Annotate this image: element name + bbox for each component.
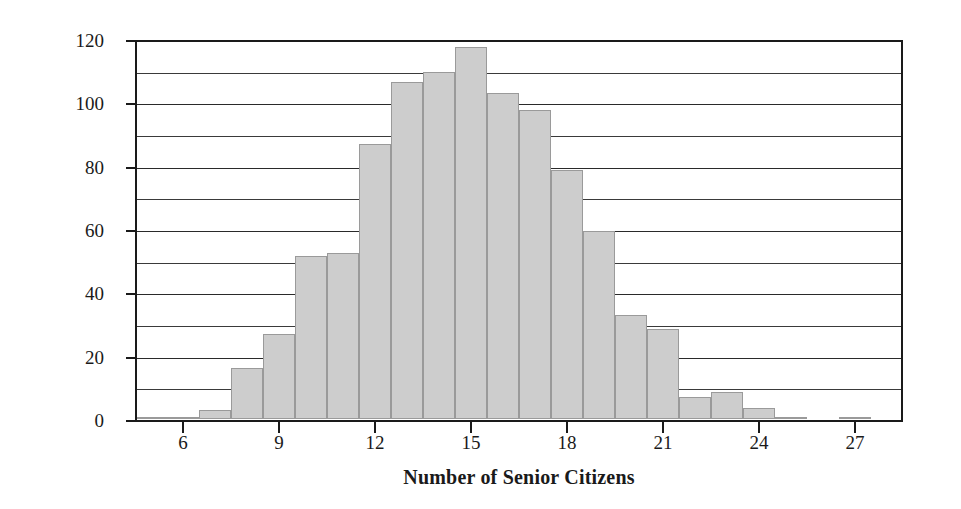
x-tick-label-27: 27 [846, 432, 865, 454]
x-axis-title: Number of Senior Citizens [135, 466, 903, 489]
histogram-bar [487, 93, 519, 419]
histogram-bar [583, 231, 615, 419]
axis-line-bottom [135, 420, 903, 422]
y-tick-label-80: 80 [85, 157, 104, 179]
x-tick-label-24: 24 [750, 432, 769, 454]
histogram-bar [711, 392, 743, 419]
histogram-bar [679, 397, 711, 419]
histogram-bar [167, 417, 199, 419]
histogram-bar [423, 72, 455, 419]
y-tick-label-100: 100 [76, 93, 105, 115]
histogram-bar [231, 368, 263, 419]
y-tick-label-0: 0 [95, 410, 105, 432]
y-tick-label-120: 120 [76, 30, 105, 52]
y-tick-label-60: 60 [85, 220, 104, 242]
gridline-110 [135, 73, 903, 74]
histogram-bar [551, 170, 583, 419]
histogram-bar [519, 110, 551, 419]
histogram-bar [839, 417, 871, 419]
histogram-bar [327, 253, 359, 419]
histogram-bar [615, 315, 647, 420]
y-tick-label-20: 20 [85, 347, 104, 369]
histogram-bar [295, 256, 327, 419]
y-tick-0 [126, 420, 135, 422]
x-axis-tick-labels: 69121518212427 [135, 432, 903, 462]
y-tick-20 [126, 357, 135, 359]
x-tick-label-21: 21 [654, 432, 673, 454]
histogram-bar [263, 334, 295, 420]
x-tick-label-6: 6 [178, 432, 188, 454]
y-tick-label-40: 40 [85, 283, 104, 305]
histogram-bar [455, 47, 487, 419]
axis-line-right [901, 41, 903, 422]
histogram-bar [775, 417, 807, 419]
y-tick-120 [126, 40, 135, 42]
histogram-bar [199, 410, 231, 420]
plot-area [135, 41, 903, 421]
histogram-bar [647, 329, 679, 419]
x-tick-label-15: 15 [462, 432, 481, 454]
y-tick-80 [126, 167, 135, 169]
histogram-bar [135, 417, 167, 419]
histogram-bar [743, 408, 775, 419]
axis-line-left [135, 41, 137, 422]
y-axis-tick-labels: 020406080100120 [0, 41, 120, 421]
y-tick-60 [126, 230, 135, 232]
y-tick-100 [126, 103, 135, 105]
histogram-bar [391, 82, 423, 419]
y-tick-40 [126, 293, 135, 295]
gridline-100 [135, 104, 903, 105]
histogram-figure: Number of Jury Pools 020406080100120 691… [0, 0, 961, 509]
histogram-bar [359, 144, 391, 420]
x-tick-label-9: 9 [274, 432, 284, 454]
gridline-120 [135, 40, 903, 42]
x-tick-label-12: 12 [366, 432, 385, 454]
x-tick-label-18: 18 [558, 432, 577, 454]
